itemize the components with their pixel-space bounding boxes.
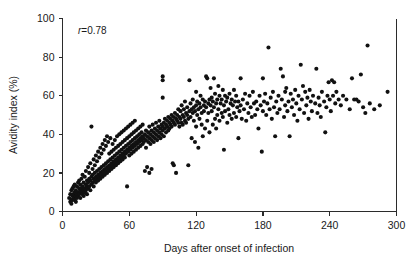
data-point [246, 111, 250, 115]
data-point [239, 103, 243, 107]
data-point [161, 78, 165, 82]
data-point [174, 171, 178, 175]
data-point [225, 96, 229, 100]
data-point [215, 113, 219, 117]
x-tick-label: 60 [123, 219, 135, 231]
data-point [207, 130, 211, 134]
data-point [281, 74, 285, 78]
data-point [313, 101, 317, 105]
data-point [378, 103, 382, 107]
data-point [221, 115, 225, 119]
data-point [86, 165, 90, 169]
data-point [323, 130, 327, 134]
data-point [210, 109, 214, 113]
data-point [216, 84, 220, 88]
y-tick-label: 80 [43, 51, 55, 63]
data-point [294, 101, 298, 105]
data-point [224, 99, 228, 103]
data-point [282, 115, 286, 119]
data-point [213, 92, 217, 96]
data-point [296, 94, 300, 98]
data-point [196, 146, 200, 150]
data-point [292, 113, 296, 117]
data-point [239, 76, 243, 80]
data-point [234, 115, 238, 119]
data-point [357, 99, 361, 103]
data-point [234, 94, 238, 98]
data-point [195, 113, 199, 117]
data-point [266, 45, 270, 49]
data-point [280, 98, 284, 102]
y-tick-label: 0 [49, 205, 55, 217]
data-point [83, 175, 87, 179]
y-tick-label: 40 [43, 128, 55, 140]
data-point [305, 96, 309, 100]
data-point [85, 192, 89, 196]
data-point [273, 134, 277, 138]
data-point [284, 86, 288, 90]
data-point [334, 90, 338, 94]
data-point [303, 90, 307, 94]
data-point [254, 99, 258, 103]
data-point [386, 90, 390, 94]
data-point [133, 119, 137, 123]
data-point [236, 99, 240, 103]
data-point [212, 76, 216, 80]
data-point [348, 107, 352, 111]
data-point [289, 92, 293, 96]
data-point [314, 67, 318, 71]
data-point [291, 98, 295, 102]
data-point [261, 109, 265, 113]
data-point [325, 94, 329, 98]
data-point [293, 88, 297, 92]
data-point [204, 105, 208, 109]
data-point [201, 134, 205, 138]
data-point [279, 67, 283, 71]
data-point [221, 88, 225, 92]
data-point [231, 103, 235, 107]
data-point [227, 113, 231, 117]
data-point [172, 163, 176, 167]
data-point [301, 84, 305, 88]
data-point [197, 101, 201, 105]
data-point [283, 90, 287, 94]
data-point [203, 126, 207, 130]
data-point [249, 105, 253, 109]
data-point [274, 99, 278, 103]
data-point [332, 80, 336, 84]
data-point [315, 111, 319, 115]
data-point [144, 146, 148, 150]
data-point [214, 126, 218, 130]
data-point [247, 94, 251, 98]
data-point [276, 94, 280, 98]
data-point [92, 184, 96, 188]
data-point [215, 98, 219, 102]
x-tick-label: 120 [187, 219, 205, 231]
data-point [269, 96, 273, 100]
data-point [310, 109, 314, 113]
data-point [188, 101, 192, 105]
data-point [311, 94, 315, 98]
scatter-plot-figure: 020406080100060120180240300 Avidity inde… [0, 0, 417, 267]
data-point [230, 117, 234, 121]
data-point [111, 142, 115, 146]
data-point [214, 101, 218, 105]
data-point [333, 101, 337, 105]
data-point [285, 109, 289, 113]
data-point [199, 94, 203, 98]
data-point [143, 169, 147, 173]
data-point [240, 117, 244, 121]
data-point [187, 78, 191, 82]
data-point [260, 150, 264, 154]
data-point [337, 98, 341, 102]
x-tick-label: 0 [60, 219, 66, 231]
data-point [302, 111, 306, 115]
data-point [89, 125, 93, 129]
data-point [225, 121, 229, 125]
data-point [328, 98, 332, 102]
data-point [309, 99, 313, 103]
data-point [69, 202, 73, 206]
data-point [150, 167, 154, 171]
data-point [217, 94, 221, 98]
data-point [192, 119, 196, 123]
